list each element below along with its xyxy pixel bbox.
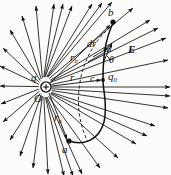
label-test-charge-subscript: 0 [114,76,117,83]
point-b-dot [110,19,115,24]
label-point-a: a [62,144,68,155]
label-origin: O [34,93,42,104]
diagram-canvas [0,0,171,175]
label-radius-ra-subscript: a [58,117,61,124]
point-c-dot [101,78,105,82]
point-charge-marker [41,82,51,92]
label-dr: dr [87,39,96,49]
label-radius-rb-subscript: b [74,57,77,64]
label-test-charge: q0 [108,71,117,83]
label-point-c: c [90,74,94,84]
field-lines-group [0,2,170,175]
label-source-charge: q [31,72,37,83]
label-radius-r: r [70,72,74,83]
label-dl: dl [104,44,112,54]
dr-guide [88,53,104,62]
electric-field-diagram: q O b a c r rb ra dr dl θ E q0 [0,0,171,175]
label-radius-ra: ra [54,112,62,124]
label-radius-rb: rb [70,52,78,64]
label-theta: θ [109,55,114,65]
label-point-b: b [108,7,114,18]
label-field-E: E [128,44,135,55]
